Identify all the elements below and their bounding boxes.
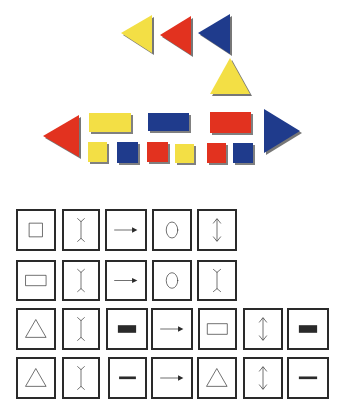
triangle-red-left-large — [43, 115, 81, 159]
block-blue-rect — [148, 113, 191, 133]
symbol-card — [16, 209, 56, 251]
symbol-card — [287, 357, 329, 399]
symbol-card — [197, 260, 237, 301]
triangle-outline-icon — [18, 359, 54, 397]
symbol-card — [287, 308, 329, 350]
thick-dash-icon — [289, 359, 327, 397]
triangle-yellow-up — [210, 58, 252, 96]
symbol-card — [106, 308, 148, 350]
i-beam-icon — [64, 211, 98, 249]
i-beam-icon — [64, 310, 98, 348]
colored-blocks-scene — [0, 0, 353, 180]
block-sq-blue-1 — [117, 142, 140, 165]
arrow-right-icon — [107, 211, 145, 249]
symbol-card — [16, 308, 56, 350]
symbol-card — [152, 209, 192, 251]
block-sq-blue-2 — [233, 143, 255, 165]
symbol-card — [243, 308, 283, 350]
symbol-card — [62, 260, 100, 301]
triangle-outline-icon — [18, 310, 54, 348]
symbol-card — [16, 260, 56, 301]
symbol-card — [62, 357, 100, 399]
circle-outline-icon — [154, 262, 190, 299]
triangle-top-blue-left — [198, 14, 232, 56]
arrow-right-icon — [153, 310, 191, 348]
blocks-illustration — [0, 0, 353, 180]
block-yellow-rect — [89, 113, 133, 134]
rectangle-outline-icon — [200, 310, 235, 348]
symbol-card — [198, 308, 237, 350]
triangle-top-yellow-left — [121, 15, 154, 55]
triangle-top-red-left — [160, 16, 193, 57]
symbol-card — [105, 260, 147, 301]
i-beam-icon — [199, 262, 235, 299]
symbol-card — [151, 357, 193, 399]
double-arrow-vertical-icon — [245, 310, 281, 348]
rectangle-outline-icon — [18, 262, 54, 299]
triangle-blue-right-large — [264, 109, 302, 155]
filled-rectangle-icon — [108, 310, 146, 348]
block-red-rect — [210, 112, 253, 135]
filled-rectangle-icon — [289, 310, 327, 348]
double-arrow-vertical-icon — [245, 359, 281, 397]
symbol-card — [62, 209, 100, 251]
symbol-card — [197, 209, 237, 251]
block-sq-yellow-2 — [175, 144, 196, 165]
symbol-card — [62, 308, 100, 350]
symbol-card — [108, 357, 147, 399]
symbol-card — [151, 308, 193, 350]
symbol-grid — [0, 195, 353, 418]
circle-outline-icon — [154, 211, 190, 249]
square-outline-icon — [18, 211, 54, 249]
i-beam-icon — [64, 262, 98, 299]
symbol-card — [197, 357, 237, 399]
double-arrow-vertical-icon — [199, 211, 235, 249]
symbol-card — [105, 209, 147, 251]
arrow-right-icon — [107, 262, 145, 299]
triangle-outline-icon — [199, 359, 235, 397]
symbol-card — [16, 357, 56, 399]
block-sq-red-1 — [147, 142, 170, 164]
block-sq-yellow-1 — [88, 142, 109, 164]
arrow-right-icon — [153, 359, 191, 397]
symbol-card — [152, 260, 192, 301]
symbol-card — [243, 357, 283, 399]
thick-dash-icon — [110, 359, 145, 397]
i-beam-icon — [64, 359, 98, 397]
block-sq-red-2 — [207, 143, 228, 165]
